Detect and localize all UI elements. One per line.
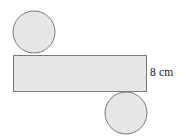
height-dimension-label: 8 cm xyxy=(150,65,173,79)
top-base-circle xyxy=(13,11,55,53)
bottom-base-circle xyxy=(105,92,147,134)
lateral-face-rectangle xyxy=(14,56,147,92)
